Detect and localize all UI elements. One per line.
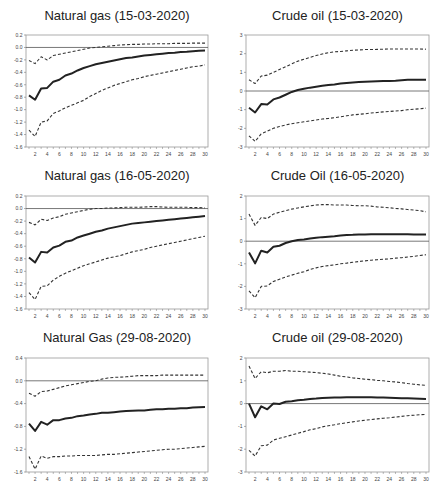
confidence-band-line [249, 205, 426, 226]
y-tick-label: 1 [240, 215, 243, 221]
x-tick-label: 24 [166, 151, 172, 157]
y-tick-label: -1.2 [14, 119, 23, 125]
x-tick-label: 16 [117, 313, 123, 319]
chart-panel: 3210-1-2-324681012141618202224262830 [238, 32, 429, 157]
chart-panel: 210-1-2-324681012141618202224262830 [238, 355, 429, 482]
y-tick-label: -1.2 [14, 446, 23, 452]
y-tick-label: -0.2 [14, 57, 23, 63]
x-tick-label: 12 [313, 151, 319, 157]
x-tick-label: 28 [411, 151, 417, 157]
confidence-band-line [249, 255, 426, 298]
x-tick-label: 26 [178, 313, 184, 319]
x-tick-label: 4 [46, 313, 49, 319]
x-tick-label: 12 [313, 476, 319, 482]
x-tick-label: 10 [81, 476, 87, 482]
x-tick-label: 26 [178, 151, 184, 157]
y-tick-label: -1.0 [14, 106, 23, 112]
y-tick-label: 0 [240, 400, 243, 406]
x-tick-label: 14 [326, 313, 332, 319]
x-tick-label: 22 [374, 476, 380, 482]
y-tick-label: 2 [240, 50, 243, 56]
y-tick-label: 0.0 [16, 378, 23, 384]
x-tick-label: 2 [254, 151, 257, 157]
x-tick-label: 2 [254, 476, 257, 482]
x-tick-label: 30 [423, 313, 429, 319]
x-tick-label: 14 [105, 313, 111, 319]
x-tick-label: 30 [202, 476, 208, 482]
x-tick-label: 4 [266, 151, 269, 157]
x-tick-label: 28 [190, 151, 196, 157]
x-tick-label: 28 [411, 313, 417, 319]
x-tick-label: 6 [278, 151, 281, 157]
confidence-band-line [249, 108, 426, 141]
y-tick-label: -0.8 [14, 423, 23, 429]
x-tick-label: 24 [166, 476, 172, 482]
x-tick-label: 2 [34, 476, 37, 482]
x-tick-label: 2 [34, 313, 37, 319]
y-tick-label: -0.8 [14, 94, 23, 100]
y-tick-label: 0.0 [16, 44, 23, 50]
confidence-band-line [29, 375, 205, 396]
x-tick-label: 24 [387, 151, 393, 157]
x-tick-label: 16 [338, 151, 344, 157]
y-tick-label: -0.8 [14, 256, 23, 262]
y-tick-label: -1.6 [14, 144, 23, 150]
y-tick-label: -0.4 [14, 230, 23, 236]
y-tick-label: -1 [238, 261, 243, 267]
x-tick-label: 26 [399, 151, 405, 157]
x-tick-label: 20 [362, 313, 368, 319]
response-line [249, 80, 426, 113]
y-tick-label: 0.4 [16, 355, 23, 361]
x-tick-label: 30 [423, 476, 429, 482]
x-tick-label: 4 [46, 476, 49, 482]
y-tick-label: 3 [240, 32, 243, 38]
x-tick-label: 30 [423, 151, 429, 157]
x-tick-label: 14 [105, 151, 111, 157]
x-tick-label: 4 [266, 313, 269, 319]
x-tick-label: 10 [301, 476, 307, 482]
plot-frame [246, 196, 429, 309]
response-line [29, 51, 205, 100]
y-tick-label: -1.0 [14, 268, 23, 274]
y-tick-label: -1.4 [14, 293, 23, 299]
plot-frame [26, 196, 208, 309]
x-tick-label: 10 [81, 313, 87, 319]
confidence-band-line [249, 49, 426, 84]
x-tick-label: 16 [117, 476, 123, 482]
x-tick-label: 28 [190, 476, 196, 482]
x-tick-label: 6 [58, 151, 61, 157]
x-tick-label: 20 [362, 151, 368, 157]
y-tick-label: 0.2 [16, 193, 23, 199]
chart-panel: 0.20.0-0.2-0.4-0.6-0.8-1.0-1.2-1.4-1.624… [14, 193, 208, 319]
x-tick-label: 20 [142, 151, 148, 157]
x-tick-label: 16 [338, 476, 344, 482]
x-tick-label: 6 [278, 313, 281, 319]
x-tick-label: 26 [178, 476, 184, 482]
x-tick-label: 16 [117, 151, 123, 157]
x-tick-label: 22 [374, 151, 380, 157]
x-tick-label: 6 [278, 476, 281, 482]
x-tick-label: 22 [154, 313, 160, 319]
x-tick-label: 18 [350, 476, 356, 482]
y-tick-label: 1 [240, 69, 243, 75]
x-tick-label: 26 [399, 476, 405, 482]
y-tick-label: -0.4 [14, 69, 23, 75]
x-tick-label: 6 [58, 313, 61, 319]
x-tick-label: 28 [411, 476, 417, 482]
confidence-band-line [29, 207, 205, 225]
x-tick-label: 20 [142, 476, 148, 482]
plot-frame [246, 358, 429, 472]
x-tick-label: 14 [105, 476, 111, 482]
y-tick-label: -1.6 [14, 306, 23, 312]
x-tick-label: 24 [387, 313, 393, 319]
x-tick-label: 8 [70, 476, 73, 482]
y-tick-label: -1 [238, 423, 243, 429]
confidence-band-line [29, 236, 205, 299]
x-tick-label: 12 [93, 151, 99, 157]
x-tick-label: 6 [58, 476, 61, 482]
y-tick-label: -1.4 [14, 131, 23, 137]
y-tick-label: -2 [238, 283, 243, 289]
x-tick-label: 2 [254, 313, 257, 319]
y-tick-label: -0.6 [14, 82, 23, 88]
y-tick-label: -0.2 [14, 218, 23, 224]
